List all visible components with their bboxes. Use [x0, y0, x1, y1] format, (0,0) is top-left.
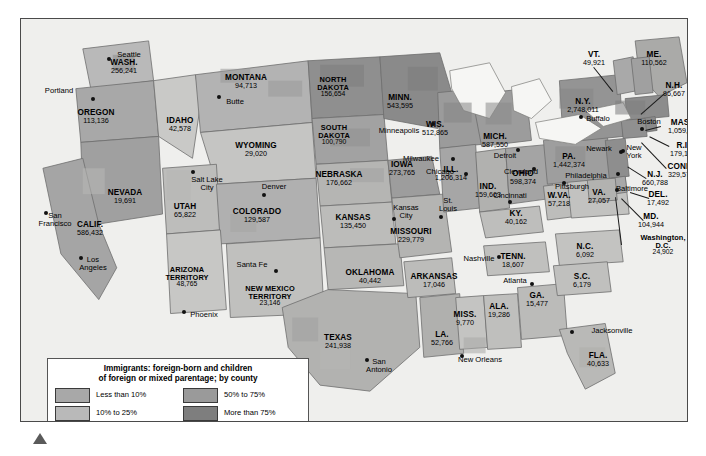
scroll-indicator-arrow-icon[interactable]: [33, 433, 47, 444]
map-legend: Immigrants: foreign-born and children of…: [47, 358, 309, 422]
legend-column-right: 50% to 75% More than 75% N.Y. 2,748,011 …: [183, 388, 301, 422]
legend-title-line2: of foreign or mixed parentage; by county: [98, 374, 257, 383]
legend-sample-key: N.Y. 2,748,011: [183, 417, 216, 422]
legend-swatch-10-25: [55, 406, 90, 421]
city-marker-dot-icon: [91, 97, 95, 101]
city-marker-dot-icon: [44, 211, 48, 215]
city-marker-dot-icon: [182, 310, 186, 314]
city-marker-dot-icon: [107, 57, 111, 61]
legend-label-lt10: Less than 10%: [96, 391, 146, 400]
legend-title-line1: Immigrants: foreign-born and children: [104, 364, 253, 373]
legend-label-gt75: More than 75%: [224, 409, 276, 418]
city-marker-dot-icon: [464, 172, 468, 176]
city-marker-dot-icon: [570, 330, 574, 334]
city-marker-dot-icon: [431, 122, 435, 126]
legend-item-50-75[interactable]: 50% to 75%: [183, 388, 301, 403]
legend-title: Immigrants: foreign-born and children of…: [55, 364, 301, 384]
city-marker-dot-icon: [439, 215, 443, 219]
map-container: ashutoshtiwari: [20, 18, 688, 422]
legend-swatch-50-75: [183, 388, 218, 403]
legend-item-10-25[interactable]: 10% to 25%: [55, 406, 173, 421]
city-marker-dot-icon: [365, 358, 369, 362]
legend-label-10-25: 10% to 25%: [96, 409, 137, 418]
city-marker-dot-icon: [79, 256, 83, 260]
city-marker-dot-icon: [562, 181, 566, 185]
city-marker-dot-icon: [497, 255, 501, 259]
legend-label-50-75: 50% to 75%: [224, 391, 265, 400]
city-marker-dot-icon: [516, 148, 520, 152]
city-marker-dot-icon: [530, 282, 534, 286]
city-marker-dot-icon: [262, 193, 266, 197]
city-marker-dot-icon: [392, 217, 396, 221]
city-marker-dot-icon: [619, 150, 623, 154]
city-marker-dot-icon: [615, 188, 619, 192]
city-marker-dot-icon: [579, 115, 583, 119]
city-marker-dot-icon: [640, 127, 644, 131]
city-marker-dot-icon: [217, 95, 221, 99]
legend-column-left: Less than 10% 10% to 25% 25% to 50%: [55, 388, 173, 422]
city-marker-dot-icon: [191, 170, 195, 174]
city-marker-dot-icon: [508, 200, 512, 204]
city-marker-dot-icon: [274, 269, 278, 273]
city-marker-dot-icon: [451, 157, 455, 161]
city-marker-dot-icon: [532, 167, 536, 171]
city-marker-dot-icon: [616, 172, 620, 176]
city-marker-dot-icon: [460, 354, 464, 358]
legend-item-lt10[interactable]: Less than 10%: [55, 388, 173, 403]
legend-swatch-lt10: [55, 388, 90, 403]
